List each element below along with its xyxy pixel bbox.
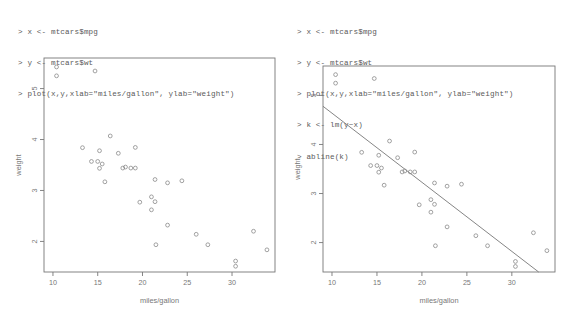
data-point: [81, 146, 85, 150]
data-point: [96, 160, 100, 164]
data-point: [413, 150, 417, 154]
data-point: [153, 200, 157, 204]
x-tick-label: 25: [183, 278, 191, 287]
data-point: [460, 182, 464, 186]
y-tick-label: 4: [31, 138, 40, 142]
data-point: [100, 162, 104, 166]
panel-divider: [283, 0, 284, 317]
data-point: [514, 260, 518, 264]
data-point: [150, 195, 154, 199]
data-point: [194, 232, 198, 236]
data-point: [265, 248, 269, 252]
data-point: [133, 166, 137, 170]
y-tick-label: 2: [31, 239, 40, 243]
data-point: [382, 183, 386, 187]
data-point: [206, 243, 210, 247]
y-tick-label: 3: [31, 188, 40, 192]
data-point: [413, 170, 417, 174]
x-tick-label: 30: [508, 278, 516, 287]
data-point: [375, 164, 379, 168]
y-axis-label: weight: [293, 158, 302, 180]
data-points: [55, 65, 269, 268]
y-axis-label: weight: [14, 154, 23, 176]
data-point: [154, 243, 158, 247]
x-axis-label: miles/gallon: [140, 296, 179, 305]
plot-frame: [44, 58, 275, 272]
data-point: [434, 244, 438, 248]
data-point: [396, 156, 400, 160]
x-tick-label: 15: [373, 278, 381, 287]
y-tick-label: 5: [310, 93, 319, 97]
panel-right: > x <- mtcars$mpg > y <- mtcars$wt > plo…: [283, 0, 566, 317]
data-point: [429, 198, 433, 202]
data-point: [153, 178, 157, 182]
panel-left: > x <- mtcars$mpg > y <- mtcars$wt > plo…: [0, 0, 283, 317]
data-point: [98, 149, 102, 153]
scatter-plot-right-svg: 10152025302345miles/gallonweight: [283, 0, 566, 317]
data-point: [252, 229, 256, 233]
data-point: [150, 208, 154, 212]
x-tick-label: 20: [138, 278, 146, 287]
data-point: [93, 69, 97, 73]
data-point: [180, 179, 184, 183]
data-point: [380, 166, 384, 170]
data-point: [369, 164, 373, 168]
y-tick-label: 2: [310, 241, 319, 245]
data-point: [377, 153, 381, 157]
plot-frame: [323, 66, 555, 272]
x-tick-label: 15: [94, 278, 102, 287]
data-point: [138, 200, 142, 204]
data-point: [234, 264, 238, 268]
data-point: [103, 180, 107, 184]
regression-line: [323, 106, 539, 272]
data-point: [429, 210, 433, 214]
data-point: [334, 73, 338, 77]
data-point: [55, 65, 59, 69]
y-tick-label: 5: [31, 87, 40, 91]
data-point: [388, 139, 392, 143]
data-points: [334, 73, 549, 269]
data-point: [445, 184, 449, 188]
x-tick-label: 10: [49, 278, 57, 287]
data-point: [334, 81, 338, 85]
y-tick-label: 4: [310, 142, 319, 146]
data-point: [360, 150, 364, 154]
data-point: [433, 202, 437, 206]
scatter-plot-left: 10152025302345miles/gallonweight: [0, 0, 283, 317]
data-point: [372, 77, 376, 81]
scatter-plot-right: 10152025302345miles/gallonweight: [283, 0, 566, 317]
data-point: [474, 234, 478, 238]
y-tick-label: 3: [310, 192, 319, 196]
data-point: [166, 181, 170, 185]
data-point: [486, 244, 490, 248]
data-point: [433, 181, 437, 185]
data-point: [532, 231, 536, 235]
scatter-plot-left-svg: 10152025302345miles/gallonweight: [0, 0, 283, 317]
data-point: [445, 225, 449, 229]
x-axis-label: miles/gallon: [419, 296, 458, 305]
data-point: [108, 134, 112, 138]
data-point: [98, 166, 102, 170]
data-point: [116, 151, 120, 155]
data-point: [377, 170, 381, 174]
x-tick-label: 30: [228, 278, 236, 287]
data-point: [133, 146, 137, 150]
data-point: [545, 249, 549, 253]
data-point: [514, 265, 518, 269]
x-tick-label: 25: [463, 278, 471, 287]
data-point: [166, 223, 170, 227]
data-point: [417, 203, 421, 207]
x-tick-label: 10: [328, 278, 336, 287]
data-point: [55, 74, 59, 78]
data-point: [90, 160, 94, 164]
data-point: [234, 259, 238, 263]
data-point: [129, 166, 133, 170]
x-tick-label: 20: [418, 278, 426, 287]
